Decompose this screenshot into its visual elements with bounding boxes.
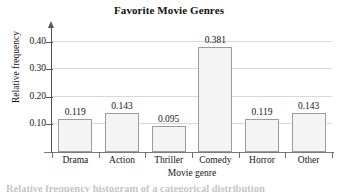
bar[interactable] bbox=[58, 119, 92, 152]
x-axis-line bbox=[44, 152, 334, 153]
bar-value-label: 0.143 bbox=[298, 101, 319, 111]
bar-value-label: 0.381 bbox=[205, 35, 226, 45]
y-axis-tick bbox=[46, 69, 53, 70]
figure-caption: Relative frequency histogram of a catego… bbox=[6, 183, 338, 192]
bar[interactable] bbox=[105, 113, 139, 152]
x-axis-tick bbox=[332, 152, 333, 158]
bar-group: 0.381 bbox=[192, 28, 239, 152]
bar-group: 0.143 bbox=[99, 28, 146, 152]
bar-value-label: 0.119 bbox=[251, 107, 272, 117]
x-axis-category-label: Thriller bbox=[145, 155, 192, 165]
bar-group: 0.119 bbox=[52, 28, 99, 152]
plot-area: 0.1190.1430.0950.3810.1190.143 bbox=[52, 28, 332, 152]
x-axis-category-label: Horror bbox=[239, 155, 286, 165]
y-axis-tick bbox=[46, 124, 53, 125]
bar-value-label: 0.119 bbox=[65, 107, 86, 117]
x-axis-tick bbox=[99, 152, 100, 158]
bar[interactable] bbox=[152, 126, 186, 152]
y-axis-tick-label: 0.10 bbox=[6, 118, 46, 128]
x-axis-category-label: Drama bbox=[52, 155, 99, 165]
x-axis-category-label: Comedy bbox=[192, 155, 239, 165]
x-axis-category-label: Other bbox=[285, 155, 332, 165]
bar-group: 0.119 bbox=[239, 28, 286, 152]
chart-title: Favorite Movie Genres bbox=[0, 4, 338, 16]
y-axis-tick-label: 0.30 bbox=[6, 63, 46, 73]
bar[interactable] bbox=[245, 119, 279, 152]
x-axis-tick bbox=[52, 152, 53, 158]
x-axis-title: Movie genre bbox=[52, 168, 332, 178]
y-axis-tick-label: 0.40 bbox=[6, 36, 46, 46]
y-axis-tick bbox=[46, 97, 53, 98]
bar-value-label: 0.143 bbox=[111, 101, 132, 111]
bar[interactable] bbox=[198, 47, 232, 152]
y-axis-arrowhead-icon bbox=[48, 21, 54, 28]
x-axis-tick bbox=[239, 152, 240, 158]
bar-group: 0.095 bbox=[145, 28, 192, 152]
x-axis-tick bbox=[192, 152, 193, 158]
y-axis-tick-label: 0.20 bbox=[6, 91, 46, 101]
bar[interactable] bbox=[292, 113, 326, 152]
x-axis-tick bbox=[285, 152, 286, 158]
bar-value-label: 0.095 bbox=[158, 114, 179, 124]
figure-container: Favorite Movie Genres Relative frequency… bbox=[0, 0, 338, 192]
x-axis-tick bbox=[145, 152, 146, 158]
x-axis-category-label: Action bbox=[99, 155, 146, 165]
bar-group: 0.143 bbox=[285, 28, 332, 152]
y-axis-tick bbox=[46, 42, 53, 43]
